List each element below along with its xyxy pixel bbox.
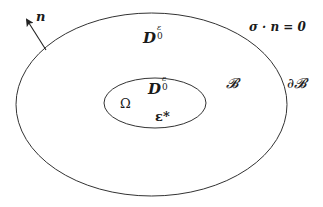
body-label: 𝓑 — [226, 76, 238, 90]
boundary-condition-label: σ · n = 0 — [249, 21, 306, 33]
inner-region-label-main: D — [148, 80, 161, 98]
outer-region-label-sub: 0 — [157, 32, 163, 41]
outer-region-label-main: D — [143, 29, 156, 47]
inner-region-label-sub: 0 — [162, 83, 168, 92]
normal-vector-arrow — [27, 20, 46, 50]
normal-vector-label: n — [36, 10, 45, 23]
domain-omega-label: Ω — [120, 97, 131, 110]
outer-region-label: Dε0 — [143, 29, 162, 46]
boundary-label: ∂𝓑 — [287, 76, 306, 90]
inner-region-label-indices: ε0 — [161, 80, 167, 94]
eigenstrain-label: ε* — [155, 110, 170, 123]
inner-region-label: Dε0 — [148, 80, 167, 97]
outer-region-label-indices: ε0 — [156, 29, 162, 43]
